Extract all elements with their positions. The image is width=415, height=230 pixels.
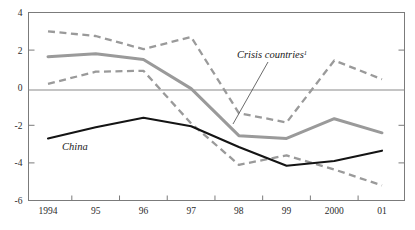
- x-tick-label: 95: [91, 206, 101, 216]
- y-tick-label: 2: [18, 46, 23, 56]
- y-tick-label: -6: [15, 196, 23, 206]
- y-tick-label: 0: [18, 83, 23, 93]
- y-tick-label: -2: [15, 121, 23, 131]
- crisis-countries-footnote-marker: 1: [304, 49, 307, 56]
- chart-figure: 420-2-4-6 19949596979899200001 Crisis co…: [0, 0, 415, 230]
- crisis-countries-label: Crisis countries1: [237, 49, 307, 61]
- x-tick-label: 2000: [325, 206, 344, 216]
- line-chart: 420-2-4-6 19949596979899200001 Crisis co…: [0, 0, 415, 230]
- x-tick-label: 99: [282, 206, 292, 216]
- x-axis: 19949596979899200001: [39, 196, 388, 216]
- y-tick-label: 4: [18, 8, 23, 18]
- china-label: China: [62, 141, 88, 152]
- series-crisis-lower-band: [48, 71, 382, 186]
- x-tick-label: 96: [139, 206, 149, 216]
- series-group: [48, 31, 382, 185]
- plot-frame: [29, 13, 405, 201]
- series-china: [48, 118, 382, 166]
- y-tick-label: -4: [15, 158, 23, 168]
- x-tick-label: 98: [234, 206, 244, 216]
- x-tick-label: 01: [377, 206, 387, 216]
- series-crisis-upper-band: [48, 31, 382, 122]
- x-tick-label: 97: [186, 206, 196, 216]
- x-tick-label: 1994: [39, 206, 58, 216]
